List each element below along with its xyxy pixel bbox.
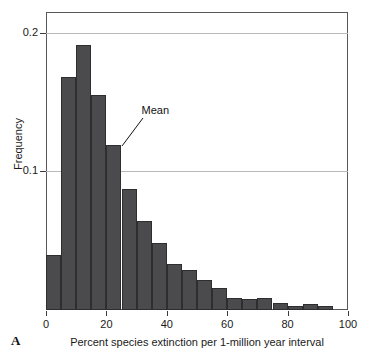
histogram-bar <box>227 298 242 310</box>
y-tick-mark <box>40 171 46 172</box>
x-tick-mark <box>288 311 289 316</box>
histogram-bar <box>303 304 318 310</box>
histogram-bar <box>137 221 152 310</box>
histogram-bar <box>122 189 137 310</box>
x-axis-title: Percent species extinction per 1-million… <box>46 336 348 348</box>
x-tick-label: 60 <box>207 318 247 330</box>
x-tick-label: 80 <box>268 318 308 330</box>
y-axis-title: Frequency <box>12 99 24 189</box>
x-tick-mark <box>167 311 168 316</box>
figure-panel-a: 0.10.2 Frequency 020406080100 Percent sp… <box>0 0 365 354</box>
x-tick-label: 100 <box>328 318 365 330</box>
x-tick-label: 40 <box>147 318 187 330</box>
histogram-bars <box>46 12 348 310</box>
histogram-bar <box>46 255 61 310</box>
x-tick-label: 20 <box>86 318 126 330</box>
histogram-bar <box>257 298 272 310</box>
histogram-bar <box>242 299 257 310</box>
histogram-bar <box>167 264 182 310</box>
histogram-bar <box>152 243 167 310</box>
histogram-bar <box>212 288 227 310</box>
x-tick-mark <box>46 311 47 316</box>
y-tick-label: 0.2 <box>2 27 38 38</box>
histogram-bar <box>318 306 333 310</box>
histogram-bar <box>197 280 212 310</box>
histogram-bar <box>76 45 91 310</box>
histogram-bar <box>182 270 197 310</box>
mean-annotation-label: Mean <box>142 104 170 116</box>
y-tick-mark <box>40 33 46 34</box>
x-tick-label: 0 <box>26 318 66 330</box>
histogram-bar <box>91 95 106 310</box>
x-tick-mark <box>348 311 349 316</box>
histogram-bar <box>106 145 121 310</box>
histogram-bar <box>61 77 76 310</box>
x-tick-mark <box>227 311 228 316</box>
panel-letter: A <box>11 333 20 349</box>
histogram-bar <box>273 303 288 310</box>
mean-leader-line <box>119 117 145 147</box>
histogram-bar <box>288 306 303 310</box>
x-tick-mark <box>106 311 107 316</box>
